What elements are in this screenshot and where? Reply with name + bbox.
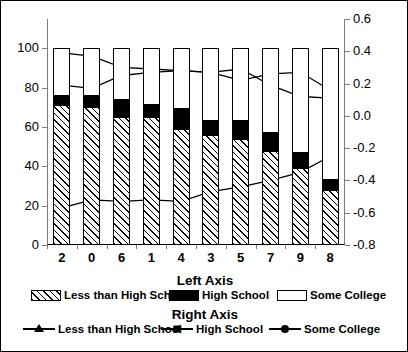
bar-segment [262, 133, 279, 151]
left-axis-tick-label: 20 [25, 199, 39, 212]
legend-marker-triangle-icon [34, 324, 44, 332]
x-axis-label: 3 [207, 251, 214, 264]
legend-swatch-white [277, 290, 307, 301]
left-axis-tick [42, 166, 47, 167]
x-axis-label: 0 [88, 251, 95, 264]
legend-marker-circle-icon [281, 325, 289, 333]
legend-marker-square-icon [174, 326, 181, 333]
bar-stack [232, 48, 249, 245]
bar-segment [143, 105, 160, 117]
hatch-pattern [144, 118, 159, 244]
hatch-pattern [54, 106, 69, 244]
legend-label: High School [202, 289, 269, 301]
bar-segment [173, 109, 190, 129]
right-axis-tick-label: -0.8 [353, 238, 375, 251]
right-axis-tick [345, 148, 350, 149]
bar-segment [113, 117, 130, 245]
bar-segment [83, 96, 100, 108]
bar-stack [113, 48, 130, 245]
bar-legend-item: Less than High School [31, 289, 188, 301]
right-axis-tick-label: 0.6 [353, 12, 371, 25]
left-axis-tick [42, 88, 47, 89]
x-axis-label: 1 [148, 251, 155, 264]
x-axis-tick [107, 245, 108, 249]
hatch-pattern [84, 108, 99, 244]
right-axis-tick [345, 51, 350, 52]
bar-segment [83, 48, 100, 95]
bar-segment [113, 100, 130, 118]
x-axis-tick [226, 245, 227, 249]
bar-segment [143, 117, 160, 245]
hatch-pattern [233, 140, 248, 244]
bar-segment [322, 48, 339, 180]
bar-segment [53, 48, 70, 95]
bar-stack [143, 48, 160, 245]
left-axis-tick-label: 80 [25, 81, 39, 94]
line-legend: Less than High SchoolHigh SchoolSome Col… [1, 323, 408, 339]
hatch-pattern [323, 191, 338, 244]
bar-segment [292, 168, 309, 245]
left-axis-tick [42, 127, 47, 128]
right-axis-tick [345, 213, 350, 214]
x-axis-tick [256, 245, 257, 249]
hatch-pattern [293, 169, 308, 244]
x-axis-label: 4 [177, 251, 184, 264]
x-axis-label: 2 [58, 251, 65, 264]
bar-segment [202, 121, 219, 135]
bar-legend-item: Some College [277, 289, 386, 301]
bar-segment [202, 48, 219, 121]
x-axis-label: 7 [267, 251, 274, 264]
legend-swatch-hatched [31, 290, 61, 301]
hatch-pattern [203, 136, 218, 244]
bar-stack [262, 48, 279, 245]
bar-segment [202, 135, 219, 245]
x-axis-tick [196, 245, 197, 249]
right-axis-tick-label: 0.0 [353, 109, 371, 122]
x-axis-label: 5 [237, 251, 244, 264]
x-axis-label: 9 [297, 251, 304, 264]
bar-segment [232, 121, 249, 139]
bar-segment [173, 48, 190, 109]
legend-label: Some College [310, 289, 386, 301]
bar-stack [292, 48, 309, 245]
hatch-pattern [263, 152, 278, 244]
left-axis-title: Left Axis [1, 273, 408, 288]
bar-legend: Less than High SchoolHigh SchoolSome Col… [1, 289, 408, 305]
bar-segment [143, 48, 160, 105]
right-axis-tick [345, 116, 350, 117]
line-series [62, 71, 330, 90]
bar-segment [83, 107, 100, 245]
bar-segment [53, 96, 70, 106]
hatch-pattern [114, 118, 129, 244]
x-axis-tick [77, 245, 78, 249]
line-legend-item: Less than High School [23, 323, 182, 335]
bar-segment [113, 48, 130, 99]
left-axis-tick-label: 40 [25, 159, 39, 172]
bar-segment [232, 48, 249, 121]
bar-segment [232, 139, 249, 245]
legend-line-sample [23, 323, 55, 335]
bar-stack [202, 48, 219, 245]
bar-stack [83, 48, 100, 245]
line-legend-item: Some College [269, 323, 380, 335]
bar-stack [173, 48, 190, 245]
right-axis-tick [345, 245, 350, 246]
right-axis-tick [345, 84, 350, 85]
bar-segment [322, 180, 339, 190]
bar-segment [262, 151, 279, 245]
right-axis-title: Right Axis [1, 307, 408, 322]
right-axis-tick-label: -0.4 [353, 173, 375, 186]
legend-swatch-solid [169, 290, 199, 301]
bar-segment [173, 129, 190, 245]
chart-figure: 020406080100-0.8-0.6-0.4-0.20.00.20.40.6… [0, 0, 408, 352]
legend-line-sample [269, 323, 301, 335]
bar-stack [322, 48, 339, 245]
x-axis-tick [315, 245, 316, 249]
legend-label: Some College [304, 323, 380, 335]
hatch-pattern [174, 130, 189, 244]
right-axis-tick-label: -0.2 [353, 141, 375, 154]
x-axis-label: 6 [118, 251, 125, 264]
line-series [62, 156, 330, 208]
left-axis-tick-label: 0 [32, 238, 39, 251]
right-axis-tick-label: 0.4 [353, 44, 371, 57]
